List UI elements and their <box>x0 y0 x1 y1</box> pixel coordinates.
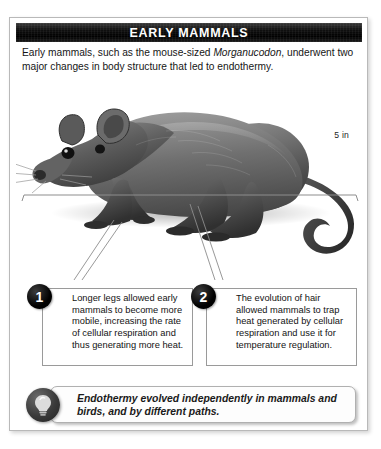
callout-1-badge: 1 <box>27 284 52 309</box>
callout-2[interactable]: 2 The evolution of hair allowed mammals … <box>206 288 357 366</box>
intro-paragraph: Early mammals, such as the mouse-sized M… <box>22 46 358 73</box>
callout-1[interactable]: 1 Longer legs allowed early mammals to b… <box>42 288 193 366</box>
panel-title-bar: EARLY MAMMALS <box>16 23 362 42</box>
callout-2-badge: 2 <box>191 284 216 309</box>
callout-1-text: Longer legs allowed early mammals to bec… <box>72 293 188 352</box>
eye-glint <box>64 149 68 153</box>
lightbulb-icon <box>26 388 60 422</box>
eye-far <box>95 145 105 154</box>
figure-root: EARLY MAMMALS Early mammals, such as the… <box>0 0 381 449</box>
intro-text-before: Early mammals, such as the mouse-sized <box>22 47 213 58</box>
summary-bar: Endothermy evolved independently in mamm… <box>26 386 356 424</box>
mammal-drawing-svg <box>16 75 362 267</box>
panel-title: EARLY MAMMALS <box>130 26 249 40</box>
eye-near <box>62 147 75 159</box>
callout-row: 1 Longer legs allowed early mammals to b… <box>20 276 360 368</box>
summary-text: Endothermy evolved independently in mamm… <box>77 392 347 419</box>
ear-far <box>59 115 84 145</box>
morganucodon-illustration <box>16 75 362 267</box>
genus-name: Morganucodon <box>213 47 281 58</box>
lightbulb-glyph <box>32 393 54 417</box>
early-mammals-panel: EARLY MAMMALS Early mammals, such as the… <box>9 17 368 431</box>
scale-label: 5 in <box>334 130 349 140</box>
summary-box: Endothermy evolved independently in mamm… <box>50 386 356 423</box>
callout-2-text: The evolution of hair allowed mammals to… <box>236 293 352 352</box>
